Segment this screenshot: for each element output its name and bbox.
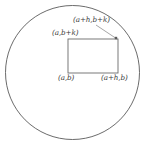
inscribed-rectangle <box>68 39 118 73</box>
corner-marker-top-right <box>115 37 117 39</box>
vertex-label-bottom-left: (a,b) <box>58 74 74 81</box>
vertex-label-bottom-right: (a+h,b) <box>101 74 128 81</box>
vertex-label-top-left: (a,b+k) <box>52 29 78 36</box>
leader-line <box>96 25 117 39</box>
geometry-figure: (a+h,b+k) (a,b+k) (a,b) (a+h,b) <box>0 0 143 148</box>
vertex-label-top-right: (a+h,b+k) <box>73 16 110 23</box>
